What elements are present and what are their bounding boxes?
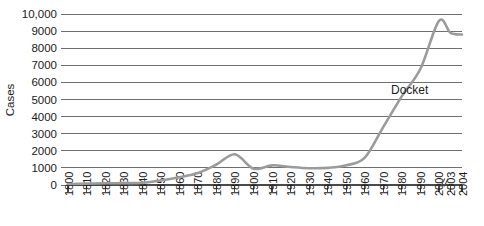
- data-line-docket: [68, 19, 462, 183]
- y-axis-tick-label: 8000: [31, 42, 57, 54]
- x-axis-tick-label: 1880: [211, 172, 223, 196]
- y-axis-tick-stubs: [61, 14, 68, 185]
- x-axis-tick-label: 2000: [433, 172, 445, 196]
- x-axis-tick-label: 1930: [304, 172, 316, 196]
- y-axis-tick-label: 4000: [31, 111, 57, 123]
- x-axis-tick-label: 1990: [415, 172, 427, 196]
- data-series-docket: [68, 19, 462, 183]
- y-axis-tick-label: 1000: [31, 162, 57, 174]
- x-axis-tick-label: 1960: [359, 172, 371, 196]
- y-axis-tick-label: 9000: [31, 25, 57, 37]
- y-axis-tick-label: 6000: [31, 76, 57, 88]
- x-axis-tick-label: 1850: [155, 172, 167, 196]
- x-axis-tick-label: 1900: [248, 172, 260, 196]
- y-axis-tick-label: 0: [51, 179, 57, 191]
- x-axis-tick-label: 1890: [229, 172, 241, 196]
- x-axis-tick-label: 1980: [396, 172, 408, 196]
- series-annotation-docket: Docket: [391, 83, 429, 97]
- x-axis-tick-label: 2004: [457, 172, 469, 196]
- y-axis-title: Cases: [4, 83, 16, 116]
- y-axis-tick-label: 7000: [31, 59, 57, 71]
- docket-cases-line-chart: 010002000300040005000600070008000900010,…: [0, 0, 484, 226]
- x-axis-tick-label: 1950: [341, 172, 353, 196]
- y-axis-tick-label: 2000: [31, 145, 57, 157]
- y-axis-tick-labels: 010002000300040005000600070008000900010,…: [22, 8, 57, 191]
- x-axis-tick-label: 1970: [378, 172, 390, 196]
- x-axis-tick-label: 2003: [445, 172, 457, 196]
- chart-container: 010002000300040005000600070008000900010,…: [0, 0, 484, 226]
- y-axis-tick-label: 3000: [31, 128, 57, 140]
- y-axis-tick-label: 5000: [31, 94, 57, 106]
- x-axis-tick-label: 1940: [322, 172, 334, 196]
- x-axis-tick-label: 1920: [285, 172, 297, 196]
- x-axis-tick-label: 1910: [267, 172, 279, 196]
- y-axis-tick-label: 10,000: [22, 8, 57, 20]
